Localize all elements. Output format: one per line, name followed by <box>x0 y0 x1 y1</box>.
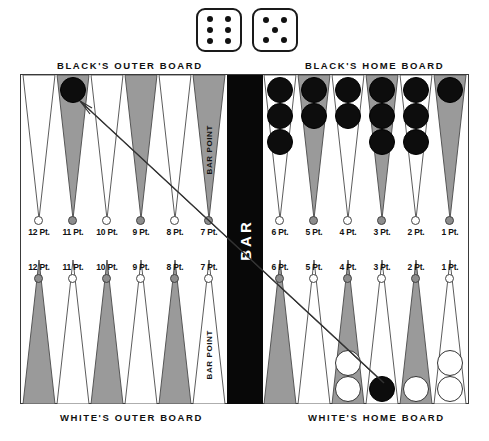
checker-black[interactable] <box>403 103 429 129</box>
point-tip-marker <box>102 274 111 283</box>
checker-black[interactable] <box>335 103 361 129</box>
point-triangle <box>158 75 192 219</box>
point-tip-marker <box>102 216 111 225</box>
point-tip-marker <box>343 216 352 225</box>
point-label: 1 Pt. <box>430 227 470 237</box>
point-label: 7 Pt. <box>189 262 229 272</box>
checker-black[interactable] <box>267 129 293 155</box>
bar[interactable]: BAR <box>227 75 263 404</box>
point-tip-marker <box>343 274 352 283</box>
die-pip <box>207 16 213 22</box>
point-11[interactable]: 11 Pt. <box>56 260 90 404</box>
checker-black[interactable] <box>403 129 429 155</box>
checker-white[interactable] <box>437 350 463 376</box>
point-3[interactable]: 3 Pt. <box>365 75 399 219</box>
point-3[interactable]: 3 Pt. <box>365 260 399 404</box>
die-pip <box>263 17 269 23</box>
checker-black[interactable] <box>437 77 463 103</box>
checker-black[interactable] <box>301 77 327 103</box>
point-tip-marker <box>377 274 386 283</box>
point-12[interactable]: 12 Pt. <box>22 75 56 219</box>
point-tip-marker <box>377 216 386 225</box>
point-label: 1 Pt. <box>430 262 470 272</box>
point-8[interactable]: 8 Pt. <box>158 260 192 404</box>
point-tip-marker <box>275 274 284 283</box>
point-6[interactable]: 6 Pt. <box>263 260 297 404</box>
point-2[interactable]: 2 Pt. <box>399 260 433 404</box>
backgammon-board[interactable]: 12 Pt.11 Pt.10 Pt.9 Pt.8 Pt.BAR POINT7 P… <box>20 74 469 404</box>
die-pip <box>207 27 213 33</box>
checker-black[interactable] <box>369 77 395 103</box>
point-label: 7 Pt. <box>189 227 229 237</box>
checker-black[interactable] <box>301 103 327 129</box>
point-9[interactable]: 9 Pt. <box>124 260 158 404</box>
bar-point-label: BAR POINT <box>205 141 214 175</box>
point-tip-marker <box>309 274 318 283</box>
point-4[interactable]: 4 Pt. <box>331 75 365 219</box>
die-pip <box>207 38 213 44</box>
quadrant-blacks-home-board[interactable]: 6 Pt.5 Pt.4 Pt.3 Pt.2 Pt.1 Pt. <box>263 75 468 239</box>
point-tip-marker <box>445 216 454 225</box>
point-7[interactable]: BAR POINT7 Pt. <box>192 75 226 219</box>
point-8[interactable]: 8 Pt. <box>158 75 192 219</box>
point-12[interactable]: 12 Pt. <box>22 260 56 404</box>
point-tip-marker <box>275 216 284 225</box>
point-tip-marker <box>34 274 43 283</box>
point-tip-marker <box>68 274 77 283</box>
point-9[interactable]: 9 Pt. <box>124 75 158 219</box>
point-7[interactable]: BAR POINT7 Pt. <box>192 260 226 404</box>
point-11[interactable]: 11 Pt. <box>56 75 90 219</box>
point-5[interactable]: 5 Pt. <box>297 260 331 404</box>
caption-blacks-outer-board: BLACK'S OUTER BOARD <box>57 60 203 71</box>
quadrant-blacks-outer-board[interactable]: 12 Pt.11 Pt.10 Pt.9 Pt.8 Pt.BAR POINT7 P… <box>22 75 227 239</box>
point-4[interactable]: 4 Pt. <box>331 260 365 404</box>
checker-black[interactable] <box>369 129 395 155</box>
checker-black[interactable] <box>369 376 395 402</box>
point-tip-marker <box>204 216 213 225</box>
quadrant-whites-home-board[interactable]: 6 Pt.5 Pt.4 Pt.3 Pt.2 Pt.1 Pt. <box>263 240 468 404</box>
point-tip-marker <box>170 274 179 283</box>
point-tip-marker <box>445 274 454 283</box>
bar-point-label: BAR POINT <box>205 346 214 380</box>
point-triangle <box>124 75 158 219</box>
point-triangle <box>22 75 56 219</box>
checker-black[interactable] <box>267 103 293 129</box>
point-tip-marker <box>204 274 213 283</box>
point-10[interactable]: 10 Pt. <box>90 260 124 404</box>
point-10[interactable]: 10 Pt. <box>90 75 124 219</box>
point-2[interactable]: 2 Pt. <box>399 75 433 219</box>
caption-blacks-home-board: BLACK'S HOME BOARD <box>305 60 444 71</box>
die-pip <box>281 17 287 23</box>
point-5[interactable]: 5 Pt. <box>297 75 331 219</box>
point-triangle <box>90 75 124 219</box>
point-6[interactable]: 6 Pt. <box>263 75 297 219</box>
point-tip-marker <box>68 216 77 225</box>
die-2[interactable] <box>252 8 298 52</box>
checker-white[interactable] <box>437 376 463 402</box>
checker-black[interactable] <box>60 77 86 103</box>
die-pip <box>272 27 278 33</box>
checker-black[interactable] <box>403 77 429 103</box>
checker-white[interactable] <box>403 376 429 402</box>
dice-area <box>196 8 308 54</box>
point-tip-marker <box>411 274 420 283</box>
point-tip-marker <box>411 216 420 225</box>
point-tip-marker <box>309 216 318 225</box>
point-tip-marker <box>136 274 145 283</box>
checker-white[interactable] <box>335 350 361 376</box>
point-tip-marker <box>34 216 43 225</box>
checker-black[interactable] <box>369 103 395 129</box>
quadrant-whites-outer-board[interactable]: 12 Pt.11 Pt.10 Pt.9 Pt.8 Pt.BAR POINT7 P… <box>22 240 227 404</box>
caption-whites-outer-board: WHITE'S OUTER BOARD <box>60 412 203 423</box>
checker-white[interactable] <box>335 376 361 402</box>
checker-black[interactable] <box>335 77 361 103</box>
point-1[interactable]: 1 Pt. <box>433 75 467 219</box>
die-pip <box>225 38 231 44</box>
point-tip-marker <box>170 216 179 225</box>
bar-label: BAR <box>237 219 254 261</box>
die-pip <box>263 37 269 43</box>
die-pip <box>281 37 287 43</box>
checker-black[interactable] <box>267 77 293 103</box>
point-1[interactable]: 1 Pt. <box>433 260 467 404</box>
die-1[interactable] <box>196 8 242 52</box>
